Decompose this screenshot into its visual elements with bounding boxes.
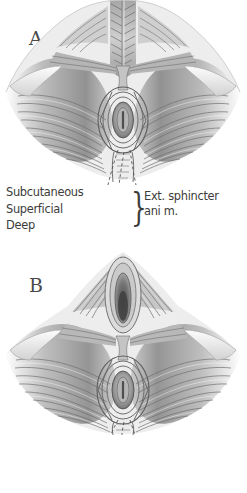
anatomy-figure: A	[0, 0, 247, 493]
panel-b: B	[0, 250, 247, 493]
label-subcutaneous: Subcutaneous	[6, 184, 116, 201]
label-superficial: Superficial	[6, 201, 116, 218]
label-deep: Deep	[6, 217, 116, 234]
panel-a-illustration	[0, 0, 247, 185]
panel-a: A	[0, 0, 247, 240]
panel-a-legend-right: Ext. sphincter ani m.	[144, 189, 246, 219]
panel-a-legend-left: Subcutaneous Superficial Deep	[6, 184, 116, 234]
label-ext-sphincter-line2: ani m.	[144, 204, 246, 219]
panel-b-illustration	[0, 250, 247, 435]
label-ext-sphincter-line1: Ext. sphincter	[144, 189, 246, 204]
panel-a-legend: Subcutaneous Superficial Deep } Ext. sph…	[0, 184, 247, 240]
